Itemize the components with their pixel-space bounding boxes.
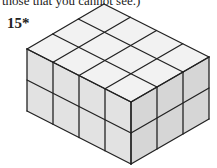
cube-prism-figure: [0, 0, 217, 168]
